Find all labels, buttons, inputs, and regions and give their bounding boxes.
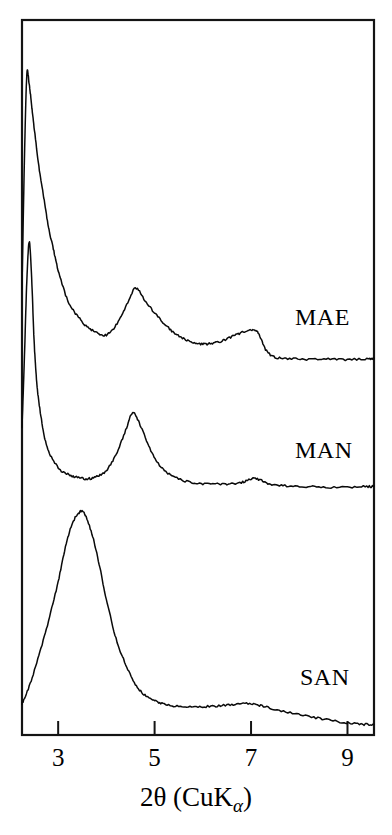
x-axis-tick-marks [58,721,347,735]
series-labels: MAEMANSAN [295,304,353,690]
plot-frame [22,20,374,735]
series-label-san: SAN [300,664,350,690]
xrd-traces [22,70,374,726]
x-tick-label-5: 5 [148,744,161,771]
x-tick-label-3: 3 [52,744,65,771]
x-axis-tick-labels: 3579 [52,744,354,771]
series-label-man: MAN [295,437,353,463]
x-tick-label-7: 7 [245,744,258,771]
xrd-plot-svg: 3579 MAEMANSAN 2θ (CuKα) [0,0,392,835]
x-axis-title: 2θ (CuKα) [140,782,252,816]
x-tick-label-9: 9 [341,744,354,771]
trace-san [22,511,374,726]
xrd-figure: 3579 MAEMANSAN 2θ (CuKα) [0,0,392,835]
series-label-mae: MAE [295,304,350,330]
